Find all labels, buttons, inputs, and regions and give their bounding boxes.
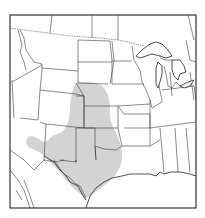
state-borders-northeast (186, 40, 196, 100)
shaded-region (26, 82, 122, 198)
lake-michigan (156, 62, 162, 88)
state-borders-east (110, 41, 196, 172)
lake-huron (172, 60, 186, 80)
map-container (0, 0, 205, 218)
lake-superior (136, 42, 172, 58)
us-canada-border (10, 28, 144, 46)
us-map (0, 0, 205, 218)
us-mexico-border (10, 150, 44, 208)
